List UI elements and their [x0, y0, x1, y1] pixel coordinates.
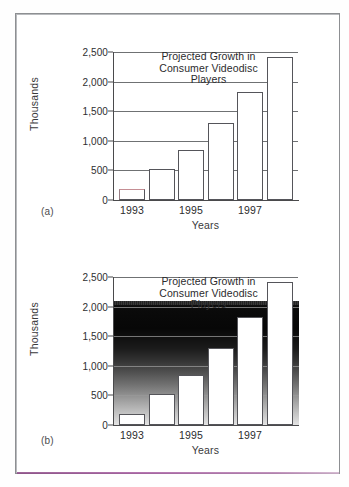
bar-1993: [119, 414, 145, 425]
y-tick-label: 500: [62, 390, 108, 401]
bar-1997: [237, 92, 263, 200]
x-axis-line-a: [113, 200, 299, 201]
y-axis-title-b: Thousands: [28, 284, 40, 374]
bar-1995: [178, 150, 204, 200]
y-tick-label: 2,000: [62, 301, 108, 312]
page-ghost-caption: [18, 477, 328, 486]
x-tick-label-1993: 1993: [120, 429, 144, 441]
bar-series-a: [113, 52, 298, 200]
x-tick-label-1997: 1997: [238, 429, 262, 441]
y-tick-label: 2,500: [62, 47, 108, 58]
panel-label-b: (b): [41, 435, 54, 446]
x-tick-label-1993: 1993: [120, 204, 144, 216]
x-tick-label-1995: 1995: [179, 204, 203, 216]
bar-1996: [208, 348, 234, 425]
y-tick-label: 2,500: [62, 272, 108, 283]
x-tick-label-1997: 1997: [238, 204, 262, 216]
panel-label-a: (a): [41, 206, 54, 217]
y-axis-title-a: Thousands: [28, 59, 40, 149]
plot-area-b: Thousands 2,500 2,000 1,500 1,000 500 0: [15, 245, 340, 460]
bar-1996: [208, 123, 234, 200]
x-tick-label-1995: 1995: [179, 429, 203, 441]
y-tick-label: 2,000: [62, 76, 108, 87]
x-axis-title-b: Years: [113, 444, 298, 456]
bar-1997: [237, 317, 263, 425]
y-tick-label: 500: [62, 165, 108, 176]
y-tick-label: 1,500: [62, 331, 108, 342]
page-bottom-rule: [17, 472, 339, 474]
y-tick-labels-a: 2,500 2,000 1,500 1,000 500 0: [62, 20, 108, 235]
bar-1994: [149, 394, 175, 425]
y-tick-labels-b: 2,500 2,000 1,500 1,000 500 0: [62, 245, 108, 460]
bar-1998: [267, 57, 293, 201]
chart-panel-a: Thousands 2,500 2,000 1,500 1,000 500 0: [15, 20, 340, 235]
chart-panel-b: Thousands 2,500 2,000 1,500 1,000 500 0: [15, 245, 340, 460]
bar-series-b: [113, 277, 298, 425]
scanned-page: Thousands 2,500 2,000 1,500 1,000 500 0: [0, 0, 349, 487]
y-tick-label: 1,000: [62, 135, 108, 146]
x-axis-title-a: Years: [113, 219, 298, 231]
bar-1995: [178, 375, 204, 425]
y-tick-label: 0: [62, 195, 108, 206]
bar-1993: [119, 189, 145, 200]
plot-area-a: Thousands 2,500 2,000 1,500 1,000 500 0: [15, 20, 340, 235]
y-tick-label: 1,000: [62, 360, 108, 371]
y-axis-line-b: [113, 277, 114, 426]
y-tick-label: 0: [62, 420, 108, 431]
bar-1998: [267, 282, 293, 426]
bar-1994: [149, 169, 175, 200]
y-tick-label: 1,500: [62, 106, 108, 117]
x-axis-line-b: [113, 425, 299, 426]
